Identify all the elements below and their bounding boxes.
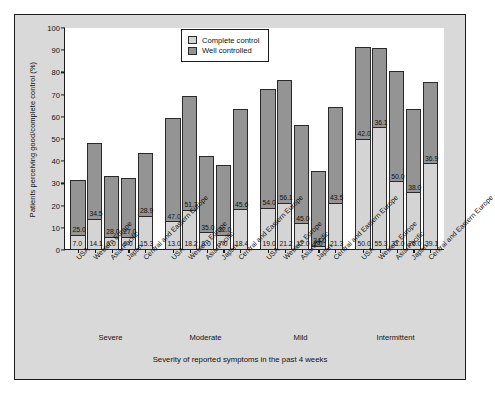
bar-segment-well-controlled[interactable]: 56.1 bbox=[277, 80, 293, 205]
legend-item-well-controlled: Well controlled bbox=[188, 46, 259, 55]
bar[interactable]: 34.514.1 bbox=[87, 143, 103, 249]
bar-value-label: 34.5 bbox=[89, 211, 102, 218]
bar-segment-well-controlled[interactable]: 36.9 bbox=[423, 82, 439, 164]
bar-segment-well-controlled[interactable]: 45.6 bbox=[233, 109, 249, 210]
category-axis-labels: USAWestern EuropeAsia-PacificJapanCentra… bbox=[64, 251, 444, 321]
bar-segment-complete-control[interactable]: 39.1 bbox=[423, 163, 439, 250]
bar-segment-complete-control[interactable]: 14.1 bbox=[87, 219, 103, 250]
bar[interactable]: 51.718.2 bbox=[182, 96, 198, 249]
bar-segment-well-controlled[interactable]: 36.1 bbox=[372, 48, 388, 128]
legend-label-well-controlled: Well controlled bbox=[202, 46, 252, 55]
bar-segment-well-controlled[interactable]: 38.0 bbox=[406, 109, 422, 193]
bar[interactable]: 43.521.3 bbox=[328, 107, 344, 249]
bar-value-label: 36.9 bbox=[425, 156, 438, 163]
legend-label-complete-control: Complete control bbox=[202, 36, 259, 45]
bar-segment-well-controlled[interactable]: 35.0 bbox=[199, 156, 215, 234]
bar-segment-well-controlled[interactable]: 54.0 bbox=[260, 89, 276, 209]
chart-figure: Patients perceiving good/complete contro… bbox=[14, 14, 466, 380]
bar-segment-well-controlled[interactable]: 28.0 bbox=[104, 176, 120, 238]
bar-group: 42.050.036.155.350.031.038.026.036.939.1 bbox=[355, 28, 438, 249]
legend-item-complete-control: Complete control bbox=[188, 36, 259, 45]
group-label: Severe bbox=[99, 333, 123, 342]
bar-value-label: 7.0 bbox=[73, 241, 82, 248]
bar-value-label: 42.0 bbox=[358, 131, 371, 138]
bar-segment-well-controlled[interactable]: 45.0 bbox=[294, 125, 310, 225]
chart-legend: Complete control Well controlled bbox=[181, 29, 269, 62]
bar-value-label: 38.0 bbox=[408, 185, 421, 192]
bar-value-label: 28.9 bbox=[140, 208, 153, 215]
bar-segment-well-controlled[interactable]: 28.9 bbox=[138, 153, 154, 217]
bar-value-label: 43.5 bbox=[330, 195, 343, 202]
bar-segment-well-controlled[interactable]: 50.0 bbox=[389, 71, 405, 182]
group-label: Mild bbox=[294, 333, 308, 342]
bar-segment-well-controlled[interactable]: 51.7 bbox=[182, 96, 198, 211]
legend-swatch-complete-control bbox=[188, 36, 197, 44]
bar[interactable]: 50.031.0 bbox=[389, 71, 405, 249]
bar-segment-complete-control[interactable]: 55.3 bbox=[372, 127, 388, 250]
bar-segment-well-controlled[interactable]: 25.0 bbox=[70, 180, 86, 236]
group-label: Intermittent bbox=[377, 333, 415, 342]
bar[interactable]: 45.618.4 bbox=[233, 109, 249, 249]
bar-value-label: 45.0 bbox=[296, 216, 309, 223]
bar-value-label: 25.0 bbox=[73, 227, 86, 234]
bar-segment-well-controlled[interactable]: 43.5 bbox=[328, 107, 344, 204]
y-axis-title: Patients perceiving good/complete contro… bbox=[28, 40, 37, 240]
bar[interactable]: 36.939.1 bbox=[423, 82, 439, 249]
x-axis-title: Severity of reported symptoms in the pas… bbox=[15, 355, 465, 364]
bar-segment-well-controlled[interactable]: 34.5 bbox=[87, 143, 103, 220]
bar-segment-well-controlled[interactable]: 42.0 bbox=[355, 47, 371, 140]
bar-group: 54.019.056.121.245.012.034.02.043.521.3 bbox=[260, 28, 343, 249]
bar-segment-well-controlled[interactable]: 47.0 bbox=[165, 118, 181, 222]
group-label: Moderate bbox=[189, 333, 221, 342]
legend-swatch-well-controlled bbox=[188, 47, 197, 55]
bar[interactable]: 25.07.0 bbox=[70, 180, 86, 249]
bar-value-label: 36.1 bbox=[374, 120, 387, 127]
bar-value-label: 54.0 bbox=[263, 200, 276, 207]
bar-value-label: 45.6 bbox=[235, 202, 248, 209]
bar-value-label: 50.0 bbox=[391, 174, 404, 181]
bar-group: 25.07.034.514.128.06.027.06.028.915.3 bbox=[70, 28, 153, 249]
